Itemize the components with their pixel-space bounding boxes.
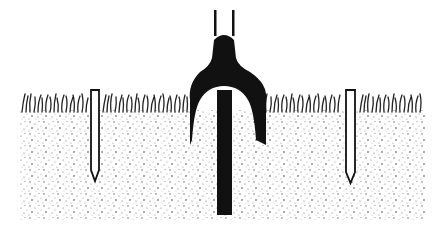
illustration — [0, 0, 440, 233]
left-stake — [91, 90, 99, 181]
right-stake — [346, 90, 355, 183]
central-rod — [217, 90, 232, 215]
